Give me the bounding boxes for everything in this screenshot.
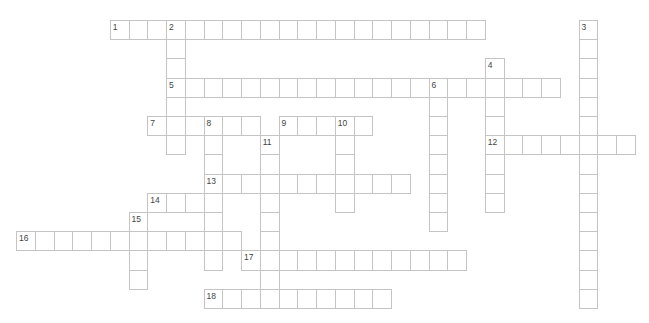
crossword-cell[interactable]: 1 [110,20,130,40]
crossword-cell[interactable] [372,250,392,270]
crossword-cell[interactable] [147,20,167,40]
crossword-cell[interactable] [485,174,505,194]
crossword-cell[interactable] [316,174,336,194]
crossword-cell[interactable] [372,289,392,309]
crossword-cell[interactable]: 2 [166,20,186,40]
crossword-cell[interactable] [241,116,261,136]
crossword-cell[interactable] [579,58,599,78]
crossword-cell[interactable] [147,231,167,251]
crossword-cell[interactable] [129,250,149,270]
crossword-cell[interactable] [447,20,467,40]
crossword-cell[interactable] [222,231,242,251]
crossword-cell[interactable] [485,116,505,136]
crossword-cell[interactable] [222,289,242,309]
crossword-cell[interactable]: 13 [204,174,224,194]
crossword-cell[interactable] [297,20,317,40]
crossword-cell[interactable] [241,20,261,40]
crossword-cell[interactable] [316,78,336,98]
crossword-cell[interactable] [222,174,242,194]
crossword-cell[interactable] [166,97,186,117]
crossword-cell[interactable] [429,97,449,117]
crossword-cell[interactable] [335,174,355,194]
crossword-cell[interactable] [279,78,299,98]
crossword-cell[interactable] [316,116,336,136]
crossword-cell[interactable] [129,270,149,290]
crossword-cell[interactable] [354,250,374,270]
crossword-cell[interactable] [429,154,449,174]
crossword-cell[interactable] [485,154,505,174]
crossword-cell[interactable] [129,231,149,251]
crossword-cell[interactable] [185,231,205,251]
crossword-cell[interactable] [429,116,449,136]
crossword-cell[interactable]: 15 [129,212,149,232]
crossword-cell[interactable]: 4 [485,58,505,78]
crossword-cell[interactable] [316,289,336,309]
crossword-cell[interactable]: 11 [260,135,280,155]
crossword-cell[interactable] [354,20,374,40]
crossword-cell[interactable] [241,174,261,194]
crossword-cell[interactable]: 18 [204,289,224,309]
crossword-cell[interactable]: 10 [335,116,355,136]
crossword-cell[interactable] [597,135,617,155]
crossword-cell[interactable] [260,174,280,194]
crossword-cell[interactable] [129,20,149,40]
crossword-cell[interactable] [260,193,280,213]
crossword-cell[interactable] [335,135,355,155]
crossword-cell[interactable] [579,174,599,194]
crossword-cell[interactable] [204,78,224,98]
crossword-cell[interactable] [260,231,280,251]
crossword-cell[interactable] [166,39,186,59]
crossword-cell[interactable] [35,231,55,251]
crossword-cell[interactable] [222,20,242,40]
crossword-cell[interactable] [410,250,430,270]
crossword-cell[interactable] [522,78,542,98]
crossword-cell[interactable] [204,250,224,270]
crossword-cell[interactable] [579,250,599,270]
crossword-cell[interactable] [410,20,430,40]
crossword-cell[interactable] [166,231,186,251]
crossword-cell[interactable] [335,289,355,309]
crossword-cell[interactable] [429,174,449,194]
crossword-cell[interactable] [579,289,599,309]
crossword-cell[interactable] [391,78,411,98]
crossword-cell[interactable] [391,20,411,40]
crossword-cell[interactable] [429,212,449,232]
crossword-cell[interactable] [185,78,205,98]
crossword-cell[interactable]: 17 [241,250,261,270]
crossword-cell[interactable] [579,39,599,59]
crossword-cell[interactable] [579,116,599,136]
crossword-cell[interactable] [354,289,374,309]
crossword-cell[interactable] [579,154,599,174]
crossword-cell[interactable] [429,20,449,40]
crossword-cell[interactable] [297,116,317,136]
crossword-cell[interactable] [279,289,299,309]
crossword-cell[interactable] [110,231,130,251]
crossword-cell[interactable] [354,78,374,98]
crossword-cell[interactable] [279,174,299,194]
crossword-cell[interactable]: 6 [429,78,449,98]
crossword-cell[interactable] [316,250,336,270]
crossword-cell[interactable] [579,270,599,290]
crossword-cell[interactable] [616,135,636,155]
crossword-cell[interactable] [354,116,374,136]
crossword-cell[interactable]: 7 [147,116,167,136]
crossword-cell[interactable] [485,97,505,117]
crossword-cell[interactable] [185,193,205,213]
crossword-cell[interactable]: 12 [485,135,505,155]
crossword-cell[interactable] [485,193,505,213]
crossword-cell[interactable] [166,116,186,136]
crossword-cell[interactable] [579,212,599,232]
crossword-cell[interactable] [335,193,355,213]
crossword-cell[interactable] [241,289,261,309]
crossword-cell[interactable] [260,20,280,40]
crossword-cell[interactable] [204,135,224,155]
crossword-cell[interactable] [579,231,599,251]
crossword-cell[interactable] [166,193,186,213]
crossword-cell[interactable] [260,289,280,309]
crossword-cell[interactable] [335,78,355,98]
crossword-cell[interactable] [204,212,224,232]
crossword-cell[interactable] [222,116,242,136]
crossword-cell[interactable] [335,154,355,174]
crossword-cell[interactable] [260,212,280,232]
crossword-cell[interactable] [222,78,242,98]
